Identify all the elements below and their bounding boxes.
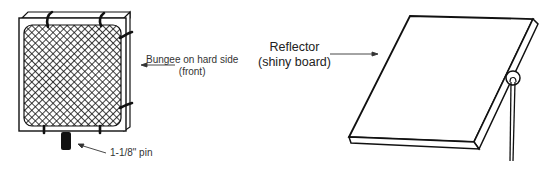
diagram-canvas bbox=[0, 0, 556, 173]
screen-frame-illustration bbox=[19, 12, 132, 150]
annotation-arrow-right bbox=[330, 52, 378, 56]
pin bbox=[61, 132, 71, 150]
reflector-label: Reflector (shiny board) bbox=[258, 40, 331, 70]
bungee-label: Bungee on hard side (front) bbox=[146, 54, 238, 78]
bungee-label-line1: Bungee on hard side bbox=[146, 54, 238, 66]
reflector-label-line2: (shiny board) bbox=[258, 55, 331, 70]
pin-label: 1-1/8" pin bbox=[110, 147, 152, 159]
reflector-illustration bbox=[349, 16, 538, 161]
bungee-label-line2: (front) bbox=[146, 66, 238, 78]
mesh-panel bbox=[24, 25, 121, 126]
reflector-label-line1: Reflector bbox=[258, 40, 331, 55]
